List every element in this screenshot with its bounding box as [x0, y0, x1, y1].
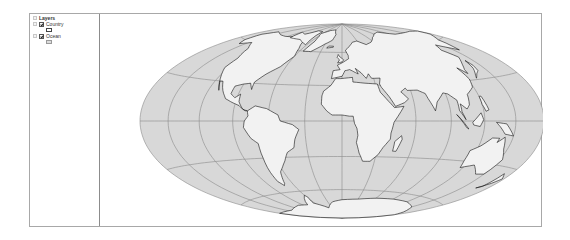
ocean-symbol-swatch[interactable]	[46, 40, 52, 44]
country-symbol-swatch[interactable]	[46, 28, 52, 32]
ocean-layer-label[interactable]: Ocean	[46, 33, 61, 39]
country-layer-label[interactable]: Country	[46, 21, 64, 27]
expand-icon[interactable]	[33, 34, 37, 38]
country-visibility-checkbox[interactable]	[39, 22, 44, 27]
layers-icon	[33, 16, 37, 20]
toc-layer-ocean[interactable]: Ocean	[33, 33, 61, 39]
ocean-visibility-checkbox[interactable]	[39, 34, 44, 39]
arcmap-window: Layers Country Ocean	[29, 13, 542, 227]
table-of-contents: Layers Country Ocean	[30, 14, 100, 226]
toc-layer-country[interactable]: Country	[33, 21, 64, 27]
world-map[interactable]	[101, 14, 543, 226]
expand-icon[interactable]	[33, 22, 37, 26]
map-view[interactable]	[101, 14, 541, 226]
